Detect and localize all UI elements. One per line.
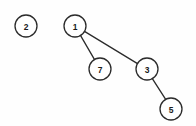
node-5-label: 5 [169, 105, 174, 115]
node-1-label: 1 [73, 22, 78, 32]
node-5[interactable]: 5 [160, 98, 182, 120]
node-1[interactable]: 1 [64, 15, 86, 37]
diagram-canvas: 2 1 7 3 5 [0, 0, 196, 126]
node-3[interactable]: 3 [136, 58, 158, 80]
node-2-label: 2 [24, 22, 29, 32]
edge-3-to-5 [153, 79, 166, 99]
node-2[interactable]: 2 [15, 15, 37, 37]
edge-1-to-7 [81, 36, 95, 60]
node-3-label: 3 [145, 65, 150, 75]
node-group: 2 1 7 3 5 [15, 15, 182, 120]
edge-1-to-3 [85, 31, 138, 63]
graph-svg: 2 1 7 3 5 [0, 0, 196, 126]
node-7-label: 7 [98, 65, 103, 75]
node-7[interactable]: 7 [89, 58, 111, 80]
